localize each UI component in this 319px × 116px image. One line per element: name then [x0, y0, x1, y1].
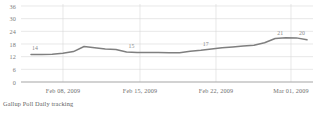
series-line-gallup-poll-daily-tracking [31, 38, 307, 55]
horizontal-gridlines [21, 6, 313, 82]
chart-container: 363024181260 Feb 08, 2009Feb 15, 2009Feb… [0, 0, 319, 116]
y-tick-label-6: 6 [0, 66, 16, 73]
y-tick-label-24: 24 [0, 28, 16, 35]
x-tick-label-3: Mar 01, 2009 [261, 87, 319, 95]
line-chart-plot [0, 0, 319, 116]
data-label-21: 21 [277, 30, 283, 36]
x-tick-label-2: Feb 22, 2009 [186, 87, 246, 95]
data-label-14: 14 [32, 45, 38, 51]
chart-caption: Gallup Poll Daily tracking [3, 100, 73, 107]
data-label-17: 17 [203, 41, 209, 47]
y-tick-label-30: 30 [0, 15, 16, 22]
y-tick-label-0: 0 [0, 79, 16, 86]
data-label-15: 15 [129, 43, 135, 49]
data-label-20: 20 [299, 30, 305, 36]
x-tick-label-1: Feb 15, 2009 [110, 87, 170, 95]
y-tick-label-36: 36 [0, 3, 16, 10]
x-tick-label-0: Feb 08, 2009 [33, 87, 93, 95]
vertical-gridlines [63, 4, 291, 82]
y-tick-label-12: 12 [0, 53, 16, 60]
y-tick-label-18: 18 [0, 41, 16, 48]
